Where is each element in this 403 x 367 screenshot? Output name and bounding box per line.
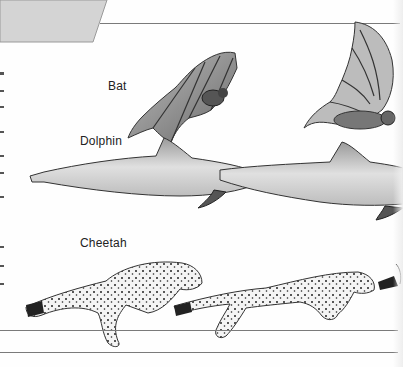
cheetah-illustration-2: [170, 258, 380, 348]
label-bat: Bat: [108, 79, 127, 93]
book-page: Bat Dolphin Cheetah: [0, 0, 403, 367]
grey-tab-shape: [0, 0, 110, 44]
text-fragment: [0, 196, 4, 198]
bottom-rule-1: [0, 330, 398, 331]
text-fragment: [0, 246, 4, 248]
text-fragment: [0, 283, 4, 285]
text-fragment: [0, 265, 4, 267]
text-fragment: [0, 155, 4, 157]
bat-illustration-1: [125, 48, 240, 143]
bat-illustration-2: [300, 20, 403, 130]
dolphin-illustration-2: [220, 140, 403, 225]
text-fragment: [0, 172, 4, 174]
text-fragment: [0, 131, 4, 133]
page-edge-shadow: [393, 0, 403, 367]
text-fragment: [0, 90, 4, 92]
bottom-rule-2: [0, 352, 398, 353]
label-cheetah: Cheetah: [80, 236, 127, 250]
text-fragment: [0, 72, 4, 75]
text-fragment: [0, 106, 4, 108]
